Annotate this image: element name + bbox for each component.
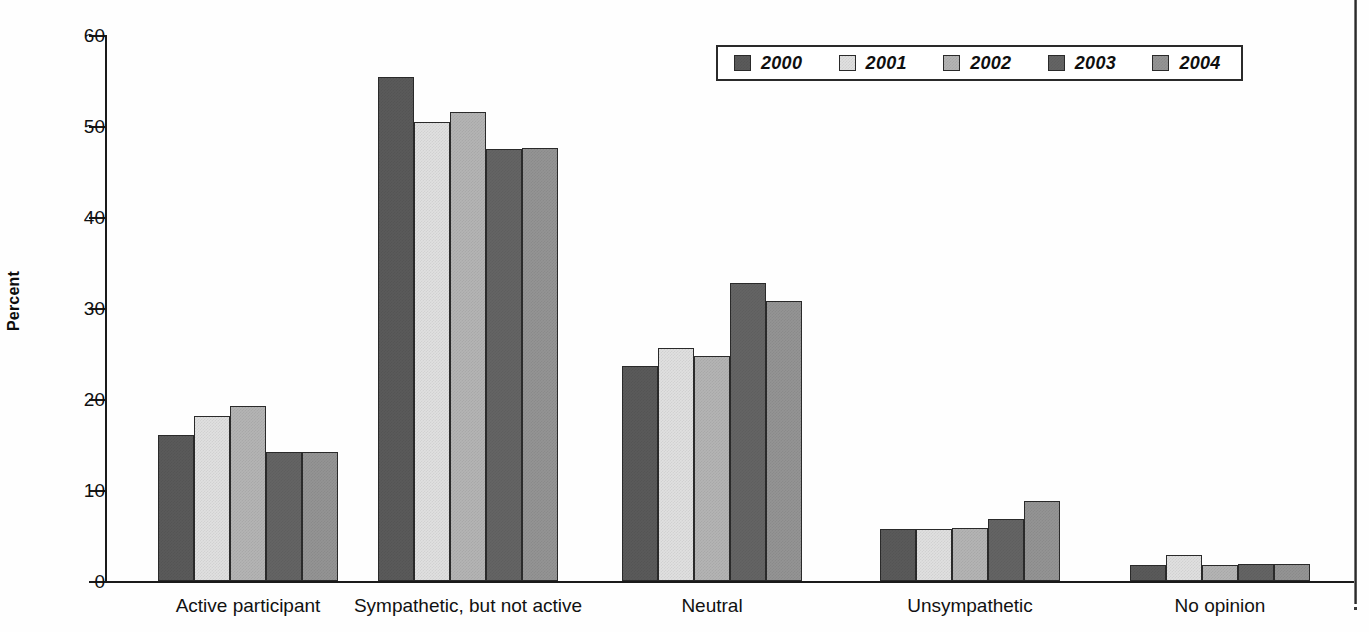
- bar-2001-unsympathetic: [916, 529, 952, 581]
- legend-item-2003[interactable]: 2003: [1032, 53, 1137, 74]
- bar-2003-sympathetic-but-not-active: [486, 149, 522, 581]
- x-axis-category-label: Neutral: [681, 595, 742, 617]
- plot-area: Percent 0102030405060 Active participant…: [0, 0, 1369, 632]
- bar-2004-active-participant: [302, 452, 338, 581]
- legend-label: 2000: [761, 53, 802, 74]
- bars-layer: Active participantSympathetic, but not a…: [0, 0, 1369, 632]
- bar-2001-sympathetic-but-not-active: [414, 122, 450, 581]
- legend-item-2002[interactable]: 2002: [927, 53, 1032, 74]
- bar-2000-active-participant: [158, 435, 194, 582]
- bar-2000-no-opinion: [1130, 565, 1166, 581]
- bar-2002-active-participant: [230, 406, 266, 581]
- bar-2001-neutral: [658, 348, 694, 581]
- page-scan-edge: [1354, 0, 1357, 604]
- legend-item-2000[interactable]: 2000: [718, 53, 823, 74]
- bar-2003-no-opinion: [1238, 564, 1274, 581]
- bar-2003-active-participant: [266, 452, 302, 581]
- bar-2002-unsympathetic: [952, 528, 988, 581]
- bar-2002-sympathetic-but-not-active: [450, 112, 486, 581]
- x-axis-category-label: Sympathetic, but not active: [354, 595, 582, 617]
- legend-label: 2002: [970, 53, 1011, 74]
- bar-2000-unsympathetic: [880, 529, 916, 581]
- x-axis-category-label: No opinion: [1175, 595, 1266, 617]
- bar-2001-active-participant: [194, 416, 230, 581]
- legend: 20002001200220032004: [716, 45, 1243, 81]
- x-axis-category-label: Unsympathetic: [907, 595, 1033, 617]
- legend-label: 2003: [1075, 53, 1116, 74]
- bar-2002-neutral: [694, 356, 730, 581]
- legend-label: 2004: [1179, 53, 1220, 74]
- bar-2004-no-opinion: [1274, 564, 1310, 581]
- legend-item-2004[interactable]: 2004: [1136, 53, 1241, 74]
- legend-label: 2001: [866, 53, 907, 74]
- bar-2002-no-opinion: [1202, 565, 1238, 581]
- legend-item-2001[interactable]: 2001: [823, 53, 928, 74]
- page-scan-corner: [1354, 607, 1357, 610]
- legend-swatch-icon: [1152, 55, 1169, 71]
- bar-2004-neutral: [766, 301, 802, 581]
- legend-swatch-icon: [734, 55, 751, 71]
- bar-2000-neutral: [622, 366, 658, 581]
- x-axis-category-label: Active participant: [176, 595, 321, 617]
- bar-2004-unsympathetic: [1024, 501, 1060, 581]
- bar-2003-neutral: [730, 283, 766, 581]
- legend-swatch-icon: [839, 55, 856, 71]
- chart-page: Percent 0102030405060 Active participant…: [0, 0, 1369, 632]
- legend-swatch-icon: [943, 55, 960, 71]
- bar-2004-sympathetic-but-not-active: [522, 148, 558, 581]
- bar-2003-unsympathetic: [988, 519, 1024, 581]
- legend-swatch-icon: [1048, 55, 1065, 71]
- bar-2001-no-opinion: [1166, 555, 1202, 581]
- bar-2000-sympathetic-but-not-active: [378, 77, 414, 581]
